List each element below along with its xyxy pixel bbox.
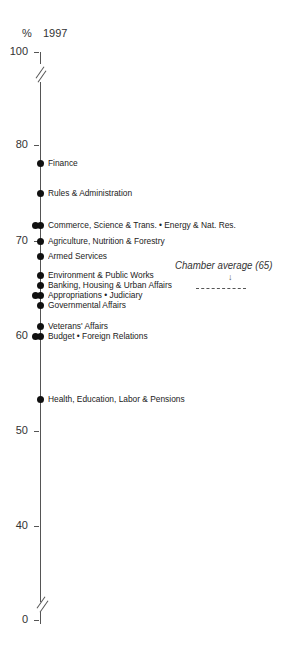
arrow-down-icon: ↓: [228, 272, 233, 282]
tick-label-60: 60: [2, 329, 28, 341]
tick-label-50: 50: [2, 424, 28, 436]
point-foreign-relations: [37, 333, 44, 340]
tick-label-70: 70: [2, 234, 28, 246]
point-banking: [37, 282, 44, 289]
label-governmental: Governmental Affairs: [48, 299, 126, 310]
chart-year: 1997: [43, 27, 67, 39]
point-governmental: [37, 302, 44, 309]
point-environment: [37, 272, 44, 279]
tick-0: [34, 620, 39, 621]
point-agriculture: [37, 238, 44, 245]
tick-50: [34, 431, 39, 432]
label-agriculture: Agriculture, Nutrition & Forestry: [48, 235, 165, 246]
point-judiciary: [37, 292, 44, 299]
point-veterans: [37, 323, 44, 330]
tick-label-100: 100: [2, 45, 28, 57]
y-axis-top-segment: [40, 52, 41, 64]
tick-80: [34, 145, 39, 146]
tick-100: [34, 52, 39, 53]
point-health: [37, 396, 44, 403]
point-energy: [37, 222, 44, 229]
label-rules: Rules & Administration: [48, 187, 132, 198]
label-commerce-energy: Commerce, Science & Trans. • Energy & Na…: [48, 219, 236, 230]
y-axis-unit: %: [22, 27, 32, 39]
point-finance: [37, 160, 44, 167]
point-armed-services: [37, 253, 44, 260]
tick-label-40: 40: [2, 519, 28, 531]
label-finance: Finance: [48, 157, 78, 168]
label-budget-foreign: Budget • Foreign Relations: [48, 330, 148, 341]
chamber-average-line: [196, 288, 246, 289]
tick-label-0: 0: [2, 613, 28, 625]
tick-40: [34, 526, 39, 527]
chamber-average-label: Chamber average (65): [175, 259, 272, 271]
label-health: Health, Education, Labor & Pensions: [48, 393, 185, 404]
point-rules: [37, 190, 44, 197]
tick-label-80: 80: [2, 138, 28, 150]
label-armed-services: Armed Services: [48, 250, 107, 261]
y-axis-bottom-segment: [40, 612, 41, 624]
